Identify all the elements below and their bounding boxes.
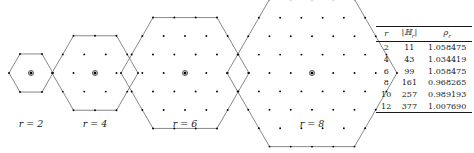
lattice-point [205,72,207,74]
lattice-point [216,17,218,19]
lattice-point [258,90,260,92]
lattice-point [354,72,356,74]
lattice-point [311,109,313,111]
cell-h: 377 [396,101,422,113]
table-body: 2111.0584754431.0344196991.05847581610.9… [376,41,472,113]
figure-panel: r = 2 r = 4 r = 6 r = 8 r |ℍr| ρr 2111.0… [0,0,474,153]
lattice-point [227,35,229,37]
hexagon-label-r6: r = 6 [154,118,216,129]
cell-h: 161 [396,77,422,89]
lattice-point [105,91,107,93]
lattice-point [173,54,175,56]
lattice-point [226,72,228,74]
table-row: 81610.968265 [376,77,472,89]
lattice-point [141,109,143,111]
lattice-point [116,72,118,74]
table-row: 102570.989193 [376,89,472,101]
lattice-point [216,91,218,93]
lattice-point [120,72,122,74]
lattice-point [41,53,43,55]
lattice-point [332,72,334,74]
lattice-point [343,90,345,92]
col-header-r: r [376,27,396,42]
lattice-point [195,17,197,19]
lattice-point [332,35,334,37]
lattice-point [19,53,21,55]
lattice-point [205,109,207,111]
lattice-point [105,53,107,55]
hexagon-group-r2 [8,53,54,93]
lattice-point [195,54,197,56]
lattice-point [237,90,239,92]
lattice-point [343,17,345,19]
lattice-point [8,72,10,74]
lattice-point [311,35,313,37]
lattice-point [152,54,154,56]
lattice-point [332,146,334,148]
lattice-point [290,146,292,148]
lattice-point [269,146,271,148]
hexagon-label-r8: r = 8 [281,118,343,129]
col-header-cardinality: |ℍr| [396,27,422,42]
hexagon-group-r6 [120,17,250,130]
lattice-point [83,91,85,93]
cell-r: 10 [376,89,396,101]
lattice-point [300,17,302,19]
lattice-point [62,53,64,55]
cell-r: 8 [376,77,396,89]
table-row: 123771.007690 [376,101,472,113]
lattice-point [279,17,281,19]
lattice-point [300,90,302,92]
lattice-point [311,146,313,148]
lattice-point [141,72,143,74]
results-table: r |ℍr| ρr 2111.0584754431.0344196991.058… [376,26,472,113]
cell-rho: 1.034419 [422,53,472,65]
lattice-point [51,72,53,74]
lattice-point [322,17,324,19]
lattice-point [258,127,260,129]
lattice-origin-point [30,72,33,75]
lattice-point [343,127,345,129]
lattice-point [269,72,271,74]
lattice-point [163,109,165,111]
lattice-point [227,109,229,111]
lattice-point [300,54,302,56]
lattice-point [163,72,165,74]
lattice-point [364,54,366,56]
lattice-point [41,91,43,93]
lattice-point [322,90,324,92]
lattice-point [343,54,345,56]
table-row: 2111.058475 [376,41,472,53]
lattice-point [73,35,75,37]
lattice-point [216,127,218,129]
lattice-point [83,53,85,55]
lattice-point [173,91,175,93]
lattice-point [290,72,292,74]
table-row: 4431.034419 [376,53,472,65]
cell-rho: 0.989193 [422,89,472,101]
col-header-rho: ρr [422,27,472,42]
lattice-point [364,127,366,129]
lattice-point [364,90,366,92]
lattice-point [247,72,249,74]
lattice-point [94,35,96,37]
lattice-point [152,91,154,93]
lattice-point [279,54,281,56]
hexagon-label-r4: r = 4 [64,118,126,129]
lattice-point [258,54,260,56]
table-row: 6991.058475 [376,65,472,77]
hexagon-label-r2: r = 2 [0,118,62,129]
lattice-point [131,54,133,56]
lattice-point [290,109,292,111]
cell-h: 43 [396,53,422,65]
lattice-point [279,90,281,92]
lattice-point [163,35,165,37]
lattice-point [152,17,154,19]
lattice-point [116,109,118,111]
lattice-point [354,109,356,111]
lattice-origin-point [94,72,97,75]
lattice-point [332,109,334,111]
lattice-point [131,91,133,93]
lattice-point [216,54,218,56]
lattice-point [126,53,128,55]
